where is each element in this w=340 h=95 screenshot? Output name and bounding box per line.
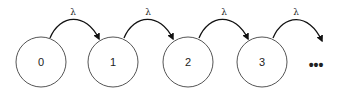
- transition-1-2: λ: [124, 7, 173, 39]
- state-label: 2: [185, 56, 191, 68]
- rate-label: λ: [70, 7, 76, 17]
- state-0: 0: [16, 37, 66, 87]
- transition-3-next: λ: [273, 7, 322, 41]
- state-3: 3: [237, 37, 287, 87]
- state-label: 0: [38, 56, 44, 68]
- state-2: 2: [163, 37, 213, 87]
- ellipsis-continuation: •••: [309, 57, 324, 73]
- arrow-icon: [273, 20, 322, 41]
- rate-label: λ: [145, 7, 151, 17]
- state-label: 3: [259, 56, 265, 68]
- rate-label: λ: [293, 7, 299, 17]
- arrow-icon: [199, 19, 248, 39]
- transition-2-3: λ: [199, 7, 248, 39]
- rate-label: λ: [221, 7, 227, 17]
- arrow-icon: [50, 19, 99, 39]
- state-chain-diagram: λ λ λ λ 0 1 2 3 •••: [0, 0, 340, 95]
- arrow-icon: [124, 19, 173, 39]
- transition-0-1: λ: [50, 7, 99, 39]
- state-label: 1: [110, 56, 116, 68]
- state-1: 1: [88, 37, 138, 87]
